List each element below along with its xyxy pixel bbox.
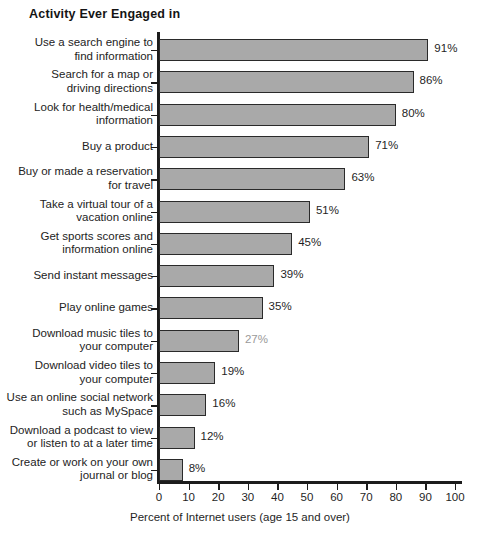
bar-rect (159, 427, 195, 449)
bar-value-label: 45% (298, 236, 321, 248)
bar-rect (159, 39, 428, 61)
bar-rect (159, 71, 414, 93)
bar (159, 168, 345, 190)
category-label: Play online games (0, 301, 153, 315)
bar-rect (159, 104, 396, 126)
category-label: Buy a product (0, 140, 153, 154)
bar (159, 233, 292, 255)
bar-rect (159, 459, 183, 481)
y-axis-tick (151, 147, 158, 148)
bar-value-label: 35% (269, 300, 292, 312)
bar-value-label: 91% (434, 42, 457, 54)
x-axis-tick-label: 0 (144, 491, 174, 503)
x-axis-tick (307, 483, 308, 490)
x-axis-tick-label: 30 (233, 491, 263, 503)
bar-value-label: 63% (351, 171, 374, 183)
category-label: Create or work on your own journal or bl… (0, 456, 153, 483)
bar (159, 71, 414, 93)
bar-rect (159, 297, 263, 319)
y-axis-tick (151, 276, 158, 277)
bar-rect (159, 330, 239, 352)
y-axis-tick (151, 115, 158, 116)
category-label: Use an online social network such as MyS… (0, 391, 153, 418)
bar-value-label: 51% (316, 204, 339, 216)
bar (159, 394, 206, 416)
category-label: Use a search engine to find information (0, 36, 153, 63)
category-label: Buy or made a reservation for travel (0, 165, 153, 192)
bar (159, 330, 239, 352)
bar (159, 459, 183, 481)
x-axis-tick (366, 483, 367, 490)
category-label: Download music tiles to your computer (0, 327, 153, 354)
x-axis-tick (425, 483, 426, 490)
x-axis-tick-label: 70 (351, 491, 381, 503)
category-label: Search for a map or driving directions (0, 68, 153, 95)
bar-value-label: 8% (189, 462, 206, 474)
bar (159, 136, 369, 158)
y-axis-tick (151, 341, 158, 342)
bar (159, 427, 195, 449)
bar (159, 39, 428, 61)
x-axis-tick-label: 100 (440, 491, 470, 503)
bar-rect (159, 362, 215, 384)
x-axis-tick (455, 483, 456, 490)
x-axis-line (157, 481, 462, 484)
bar (159, 201, 310, 223)
bar (159, 265, 274, 287)
bar-rect (159, 265, 274, 287)
y-axis-tick (151, 438, 158, 439)
category-label: Download a podcast to view or listen to … (0, 424, 153, 451)
bar (159, 297, 263, 319)
x-axis-tick-label: 40 (262, 491, 292, 503)
x-axis-tick (337, 483, 338, 490)
category-label: Take a virtual tour of a vacation online (0, 198, 153, 225)
x-axis-tick (396, 483, 397, 490)
bar-rect (159, 136, 369, 158)
x-axis-tick-label: 60 (322, 491, 352, 503)
y-axis-tick (151, 405, 158, 406)
bar-value-label: 80% (402, 107, 425, 119)
bar-rect (159, 394, 206, 416)
bar-rect (159, 233, 292, 255)
x-axis-tick (189, 483, 190, 490)
y-axis-tick (151, 470, 158, 471)
bar-value-label: 12% (201, 430, 224, 442)
bar-chart: Activity Ever Engaged in 91%86%80%71%63%… (0, 0, 480, 535)
x-axis-tick (248, 483, 249, 490)
bar-value-label: 19% (221, 365, 244, 377)
x-axis-title: Percent of Internet users (age 15 and ov… (0, 511, 480, 523)
bar (159, 362, 215, 384)
x-axis-tick-label: 10 (174, 491, 204, 503)
x-axis-tick (277, 483, 278, 490)
category-label: Send instant messages (0, 269, 153, 283)
x-axis-tick (159, 483, 160, 490)
y-axis-tick (151, 244, 158, 245)
bar-value-label: 39% (280, 268, 303, 280)
y-axis-tick (151, 179, 158, 180)
y-axis-tick (151, 82, 158, 83)
y-axis-tick (151, 373, 158, 374)
y-axis-tick (151, 50, 158, 51)
category-label: Get sports scores and information online (0, 230, 153, 257)
chart-title: Activity Ever Engaged in (29, 7, 180, 21)
y-axis-tick (151, 212, 158, 213)
bar-value-label: 71% (375, 139, 398, 151)
bar (159, 104, 396, 126)
bar-value-label: 16% (212, 397, 235, 409)
category-label: Look for health/medical information (0, 101, 153, 128)
x-axis-tick-label: 20 (203, 491, 233, 503)
x-axis-tick-label: 50 (292, 491, 322, 503)
x-axis-tick-label: 80 (381, 491, 411, 503)
bar-value-label: 86% (420, 74, 443, 86)
bar-value-label: 27% (245, 333, 268, 345)
bar-rect (159, 201, 310, 223)
y-axis-tick (151, 308, 158, 309)
category-label: Download video tiles to your computer (0, 359, 153, 386)
x-axis-tick (218, 483, 219, 490)
x-axis-tick-label: 90 (410, 491, 440, 503)
bar-rect (159, 168, 345, 190)
